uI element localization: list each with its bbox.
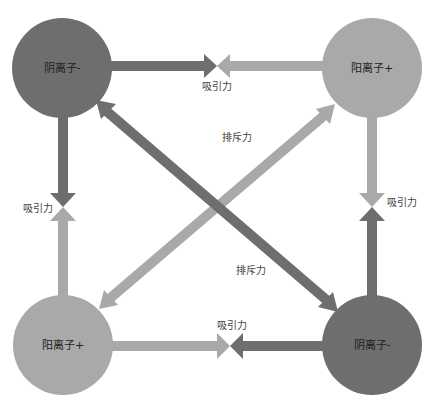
right-top-arrow-shaft (367, 116, 377, 194)
left-top-arrow-shaft (58, 116, 68, 194)
bottom-right-arrowhead (230, 333, 243, 359)
left-bottom-arrowhead (50, 207, 76, 221)
top-attraction-arrows: 吸引力 (110, 54, 324, 92)
node-label: 阴离子- (354, 338, 391, 352)
left-attraction-arrows: 吸引力 (23, 116, 76, 297)
upper-repulsion-label: 排斥力 (222, 131, 252, 143)
bottom-left-arrow-shaft (112, 341, 218, 351)
left-top-arrowhead (50, 193, 76, 207)
right-attraction-arrows: 吸引力 (359, 116, 417, 297)
lower-repulsion-label: 排斥力 (236, 264, 266, 276)
ion-node-top-right: 阳离子+ (322, 18, 422, 118)
right-top-arrowhead (359, 193, 385, 207)
ion-node-bottom-right: 阴离子- (322, 295, 422, 395)
ion-force-diagram: 吸引力 吸引力 吸引力 吸引力 排斥力 排斥力 (0, 0, 434, 409)
bottom-force-label: 吸引力 (217, 319, 247, 331)
top-right-arrowhead (217, 54, 230, 78)
right-force-label: 吸引力 (387, 196, 417, 208)
node-label: 阴离子- (44, 61, 81, 75)
top-left-arrow-shaft (110, 61, 206, 71)
ion-node-bottom-left: 阳离子+ (13, 295, 113, 395)
bottom-left-arrowhead (217, 333, 230, 359)
bottom-right-arrow-shaft (242, 341, 324, 351)
left-bottom-arrow-shaft (58, 219, 68, 297)
node-label: 阳离子+ (351, 61, 393, 75)
bottom-attraction-arrows: 吸引力 (112, 319, 324, 359)
top-left-arrowhead (204, 54, 217, 78)
top-force-label: 吸引力 (202, 80, 232, 92)
top-right-arrow-shaft (228, 61, 324, 71)
ion-node-top-left: 阴离子- (12, 18, 112, 118)
right-bottom-arrowhead (359, 207, 385, 221)
node-label: 阳离子+ (42, 338, 84, 352)
left-force-label: 吸引力 (23, 202, 53, 214)
right-bottom-arrow-shaft (367, 219, 377, 297)
